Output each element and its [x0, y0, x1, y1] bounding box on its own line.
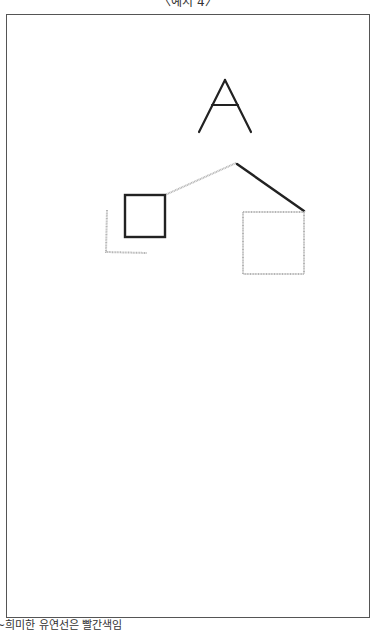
dark-diagonal-line: [237, 164, 304, 211]
dark-square: [125, 195, 165, 237]
faint-corner-shape: [106, 210, 147, 253]
faint-diagonal-line: [165, 163, 236, 195]
footnote-text: ~희미한 유연선은 빨간색임: [0, 616, 122, 632]
letter-a: [199, 80, 251, 132]
faint-square: [243, 212, 304, 274]
